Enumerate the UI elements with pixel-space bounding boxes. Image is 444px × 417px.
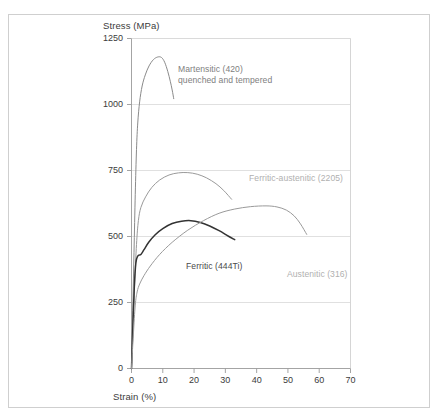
y-tick-label: 1250 [89,33,123,43]
x-tick-label: 0 [120,375,144,385]
annotation-line: Austenitic (316) [287,269,348,280]
y-tick-label: 1000 [89,99,123,109]
chart-plot-area [0,0,444,417]
plot-frame [132,39,351,369]
x-tick-label: 60 [307,375,331,385]
annotation-ferritic: Ferritic (444Ti) [186,261,242,272]
annotation-austenitic: Austenitic (316) [287,269,348,280]
annotation-line: Ferritic-austenitic (2205) [249,173,343,184]
curve-ferritic [132,221,235,369]
x-tick-label: 30 [213,375,237,385]
x-tick-label: 70 [339,375,363,385]
annotation-line: Ferritic (444Ti) [186,261,242,272]
x-tick-label: 40 [245,375,269,385]
curve-martensitic [132,57,174,369]
y-tick-label: 0 [89,363,123,373]
annotation-line: Martensitic (420) [178,64,272,75]
y-tick-label: 750 [89,165,123,175]
y-axis-ticks [127,39,132,369]
x-tick-label: 50 [276,375,300,385]
y-tick-label: 500 [89,231,123,241]
x-axis-ticks [132,369,351,374]
annotation-ferritic-austenitic: Ferritic-austenitic (2205) [249,173,343,184]
y-tick-label: 250 [89,297,123,307]
annotation-line: quenched and tempered [178,75,272,86]
x-tick-label: 10 [151,375,175,385]
data-curves [132,57,307,369]
stress-strain-figure: Stress (MPa) Strain (%) 0250500750100012… [0,0,444,417]
annotation-martensitic: Martensitic (420)quenched and tempered [178,64,272,85]
x-tick-label: 20 [182,375,206,385]
